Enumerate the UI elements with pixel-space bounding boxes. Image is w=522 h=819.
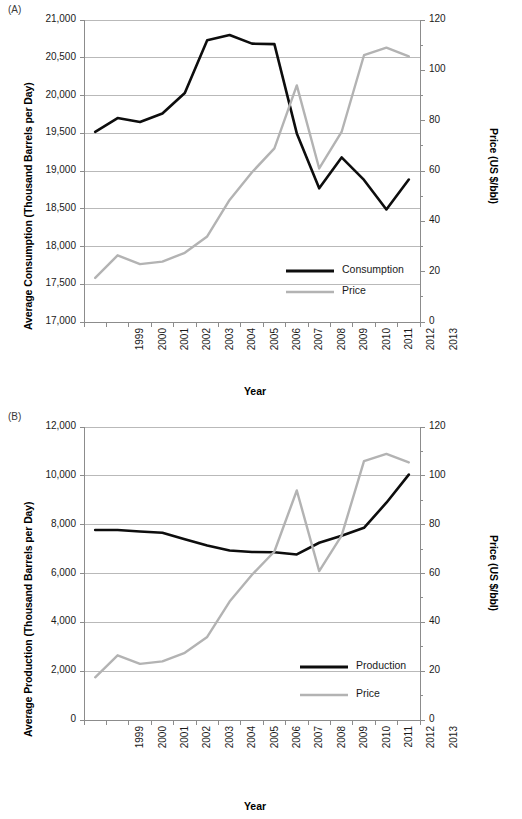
x-tick-label: 2006 [291, 726, 302, 760]
x-tick-label: 2002 [201, 726, 212, 760]
x-tick-label: 2007 [313, 328, 324, 362]
x-tick-label: 2001 [179, 726, 190, 760]
y-tick-label: 21,000 [18, 13, 76, 24]
y-tick-label: 20,500 [18, 51, 76, 62]
secondary-y-tick-label: 80 [429, 114, 440, 125]
chart-panel-b: (B) Average Production (Thousand Barrels… [0, 405, 522, 819]
x-tick-label: 2005 [269, 726, 280, 760]
x-tick-label: 2007 [313, 726, 324, 760]
secondary-y-tick-label: 120 [429, 13, 446, 24]
x-tick-label: 2008 [336, 328, 347, 362]
x-tick-label: 2001 [179, 328, 190, 362]
x-tick-label: 1999 [134, 328, 145, 362]
x-tick-label: 2008 [336, 726, 347, 760]
chart-b-legend-label-production: Production [356, 659, 406, 671]
chart-a-x-axis-title: Year [185, 385, 325, 397]
chart-panel-a: (A) Average Consumption (Thousand Barrel… [0, 0, 522, 410]
x-tick-label: 1999 [134, 726, 145, 760]
x-tick-label: 2006 [291, 328, 302, 362]
y-tick-label: 17,000 [18, 315, 76, 326]
y-tick-label: 12,000 [18, 420, 76, 431]
secondary-y-tick-label: 0 [429, 315, 435, 326]
y-tick-label: 10,000 [18, 469, 76, 480]
y-tick-label: 19,000 [18, 164, 76, 175]
y-tick-label: 6,000 [18, 567, 76, 578]
secondary-y-tick-label: 120 [429, 420, 446, 431]
x-tick-label: 2003 [224, 328, 235, 362]
secondary-y-tick-label: 100 [429, 469, 446, 480]
x-tick-label: 2011 [403, 328, 414, 362]
x-tick-label: 2013 [448, 328, 459, 362]
y-tick-label: 0 [18, 713, 76, 724]
chart-a-legend-label-consumption: Consumption [342, 263, 404, 275]
chart-b-x-axis-title: Year [185, 800, 325, 812]
chart-a-legend-label-price: Price [342, 284, 366, 296]
secondary-y-tick-label: 100 [429, 63, 446, 74]
secondary-y-tick-label: 40 [429, 615, 440, 626]
y-tick-label: 18,000 [18, 240, 76, 251]
y-tick-label: 20,000 [18, 89, 76, 100]
chart-b-plot [0, 405, 522, 819]
secondary-y-tick-label: 60 [429, 567, 440, 578]
x-tick-label: 2002 [201, 328, 212, 362]
x-tick-label: 2004 [246, 328, 257, 362]
x-tick-label: 2009 [358, 328, 369, 362]
chart-b-secondary-y-axis-title: Price (US $/bbl) [488, 535, 500, 611]
secondary-y-tick-label: 80 [429, 518, 440, 529]
x-tick-label: 2013 [448, 726, 459, 760]
x-tick-label: 2011 [403, 726, 414, 760]
y-tick-label: 19,500 [18, 126, 76, 137]
y-tick-label: 2,000 [18, 664, 76, 675]
x-tick-label: 2005 [269, 328, 280, 362]
chart-a-secondary-y-axis-title: Price (US $/bbl) [488, 128, 500, 204]
chart-b-legend-label-price: Price [356, 687, 380, 699]
secondary-y-tick-label: 20 [429, 664, 440, 675]
secondary-y-tick-label: 60 [429, 164, 440, 175]
y-tick-label: 17,500 [18, 277, 76, 288]
x-tick-label: 2000 [157, 328, 168, 362]
secondary-y-tick-label: 20 [429, 265, 440, 276]
x-tick-label: 2003 [224, 726, 235, 760]
y-tick-label: 4,000 [18, 615, 76, 626]
secondary-y-tick-label: 0 [429, 713, 435, 724]
y-tick-label: 8,000 [18, 518, 76, 529]
x-tick-label: 2010 [381, 328, 392, 362]
secondary-y-tick-label: 40 [429, 214, 440, 225]
x-tick-label: 2010 [381, 726, 392, 760]
x-tick-label: 2000 [157, 726, 168, 760]
x-tick-label: 2009 [358, 726, 369, 760]
x-tick-label: 2012 [425, 328, 436, 362]
chart-a-plot [0, 0, 522, 410]
x-tick-label: 2004 [246, 726, 257, 760]
x-tick-label: 2012 [425, 726, 436, 760]
y-tick-label: 18,500 [18, 202, 76, 213]
